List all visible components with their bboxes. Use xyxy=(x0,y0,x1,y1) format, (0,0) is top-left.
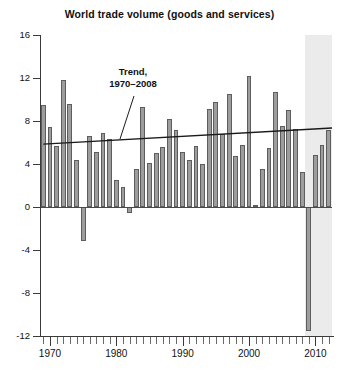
x-tick-mark-minor xyxy=(209,337,210,344)
x-tick-mark-minor xyxy=(223,337,224,344)
x-tick-mark-major xyxy=(315,337,316,346)
x-tick-mark-minor xyxy=(282,337,283,344)
x-tick-mark-major xyxy=(50,337,51,346)
x-tick-mark-minor xyxy=(163,337,164,344)
y-tick-mark xyxy=(33,250,41,251)
x-tick-mark-minor xyxy=(329,337,330,344)
x-tick-mark-minor xyxy=(156,337,157,344)
x-tick-mark-minor xyxy=(90,337,91,344)
x-tick-mark-minor xyxy=(276,337,277,344)
x-tick-label: 2010 xyxy=(295,348,335,359)
y-tick-label: 4 xyxy=(0,158,30,169)
trend-annotation: Trend, 1970–2008 xyxy=(92,66,174,90)
y-tick-mark xyxy=(33,35,41,36)
chart-title: World trade volume (goods and services) xyxy=(0,8,339,20)
x-tick-mark-minor xyxy=(309,337,310,344)
trend-annotation-line1: Trend, xyxy=(92,66,174,78)
y-tick-label: 16 xyxy=(0,29,30,40)
y-axis-line xyxy=(40,35,41,336)
x-tick-mark-minor xyxy=(143,337,144,344)
y-tick-label: 12 xyxy=(0,72,30,83)
x-tick-label: 2000 xyxy=(229,348,269,359)
x-tick-mark-major xyxy=(183,337,184,346)
x-tick-mark-minor xyxy=(96,337,97,344)
x-tick-mark-major xyxy=(116,337,117,346)
x-tick-mark-minor xyxy=(150,337,151,344)
x-tick-mark-minor xyxy=(262,337,263,344)
x-tick-mark-major xyxy=(249,337,250,346)
x-tick-mark-minor xyxy=(43,337,44,344)
x-tick-mark-minor xyxy=(176,337,177,344)
y-tick-mark xyxy=(33,207,41,208)
x-tick-mark-minor xyxy=(236,337,237,344)
x-tick-mark-minor xyxy=(229,337,230,344)
x-tick-mark-minor xyxy=(57,337,58,344)
y-tick-label: 8 xyxy=(0,115,30,126)
y-tick-label: -12 xyxy=(0,330,30,341)
x-tick-mark-minor xyxy=(83,337,84,344)
x-tick-mark-minor xyxy=(63,337,64,344)
x-tick-mark-minor xyxy=(103,337,104,344)
y-tick-label: -4 xyxy=(0,244,30,255)
x-tick-mark-minor xyxy=(242,337,243,344)
x-tick-mark-minor xyxy=(296,337,297,344)
x-tick-mark-minor xyxy=(289,337,290,344)
x-tick-mark-minor xyxy=(269,337,270,344)
y-tick-label: 0 xyxy=(0,201,30,212)
x-tick-mark-minor xyxy=(70,337,71,344)
trend-annotation-line2: 1970–2008 xyxy=(92,78,174,90)
x-tick-mark-minor xyxy=(130,337,131,344)
x-tick-mark-minor xyxy=(302,337,303,344)
x-tick-label: 1990 xyxy=(163,348,203,359)
x-tick-mark-minor xyxy=(203,337,204,344)
x-tick-mark-minor xyxy=(169,337,170,344)
x-tick-label: 1980 xyxy=(96,348,136,359)
x-tick-mark-minor xyxy=(189,337,190,344)
chart-container: World trade volume (goods and services) … xyxy=(0,0,339,370)
x-tick-mark-minor xyxy=(77,337,78,344)
plot-area xyxy=(40,35,332,336)
y-tick-mark xyxy=(33,121,41,122)
x-tick-mark-minor xyxy=(256,337,257,344)
trend-line xyxy=(40,35,332,336)
y-tick-mark xyxy=(33,336,41,337)
x-tick-mark-minor xyxy=(136,337,137,344)
x-tick-mark-minor xyxy=(216,337,217,344)
x-tick-label: 1970 xyxy=(30,348,70,359)
y-tick-label: -8 xyxy=(0,287,30,298)
x-tick-mark-minor xyxy=(123,337,124,344)
x-tick-mark-minor xyxy=(196,337,197,344)
x-tick-mark-minor xyxy=(110,337,111,344)
x-tick-mark-minor xyxy=(322,337,323,344)
y-tick-mark xyxy=(33,164,41,165)
y-tick-mark xyxy=(33,78,41,79)
y-tick-mark xyxy=(33,293,41,294)
